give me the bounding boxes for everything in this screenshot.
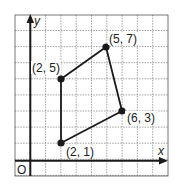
coordinate-plane: y x O (2, 1) (2, 5) (5, 7) (6, 3) — [0, 0, 178, 187]
y-axis-label: y — [33, 14, 41, 28]
point-6-3 — [118, 107, 125, 114]
point-2-5 — [57, 75, 64, 82]
x-axis-arrow-icon — [159, 157, 168, 165]
point-label-2-5: (2, 5) — [32, 61, 60, 75]
point-label-6-3: (6, 3) — [127, 111, 155, 125]
point-label-5-7: (5, 7) — [109, 32, 137, 46]
point-2-1 — [57, 139, 64, 146]
x-axis-label: x — [157, 144, 165, 158]
origin-label: O — [17, 163, 26, 177]
point-label-2-1: (2, 1) — [66, 145, 94, 159]
